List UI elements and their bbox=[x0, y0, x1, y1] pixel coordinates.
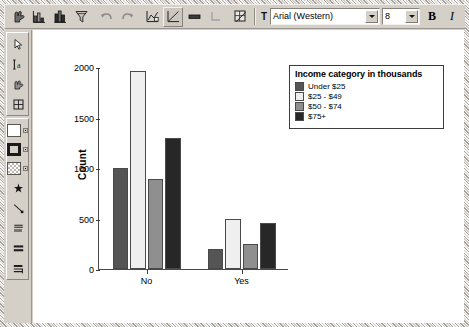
border-color-swatch[interactable] bbox=[7, 140, 28, 158]
legend-entries: Under $25$25 - $49$50 - $74$75+ bbox=[295, 82, 439, 121]
x-tick-mark bbox=[242, 269, 243, 274]
chart-canvas[interactable]: Count Owns PDA 0500100015002000 NoYes In… bbox=[33, 30, 464, 323]
fill-color-swatch[interactable] bbox=[7, 121, 28, 139]
legend-color-swatch bbox=[295, 112, 304, 121]
text-insert-icon[interactable]: a bbox=[7, 54, 29, 74]
svg-text:a: a bbox=[17, 61, 21, 70]
legend-color-swatch bbox=[295, 82, 304, 91]
table-grid-icon[interactable] bbox=[7, 94, 29, 114]
bar[interactable] bbox=[130, 71, 146, 269]
pattern-swatch[interactable] bbox=[7, 159, 28, 177]
bar-chart-icon[interactable] bbox=[29, 7, 49, 27]
redo-icon[interactable] bbox=[117, 7, 137, 27]
bar-style-icon[interactable] bbox=[7, 238, 29, 258]
bar[interactable] bbox=[208, 249, 224, 269]
bar-fill-icon[interactable] bbox=[184, 7, 204, 27]
palette-group-fills bbox=[6, 118, 29, 280]
border-color-chip[interactable] bbox=[7, 143, 21, 156]
histogram-icon[interactable] bbox=[50, 7, 70, 27]
italic-button[interactable]: I bbox=[444, 8, 460, 26]
toolbar-separator bbox=[254, 8, 256, 25]
font-name-value: Arial (Western) bbox=[271, 9, 364, 24]
font-size-value: 8 bbox=[383, 9, 404, 24]
y-tick-mark bbox=[96, 270, 100, 271]
pattern-dropdown[interactable] bbox=[23, 166, 28, 171]
legend-label: $25 - $49 bbox=[308, 92, 342, 101]
font-size-dropdown-arrow[interactable] bbox=[405, 10, 418, 23]
tool-palette: a bbox=[4, 30, 32, 323]
legend-item[interactable]: $25 - $49 bbox=[295, 92, 439, 101]
spike-style-icon[interactable] bbox=[7, 218, 29, 238]
font-name-combobox[interactable]: Arial (Western) bbox=[270, 8, 380, 25]
legend-item[interactable]: Under $25 bbox=[295, 82, 439, 91]
chart-frame-icon[interactable] bbox=[163, 7, 183, 27]
pointer-hand-icon[interactable] bbox=[8, 7, 28, 27]
data-label-icon[interactable] bbox=[7, 74, 29, 94]
line-style-icon[interactable] bbox=[7, 198, 29, 218]
bold-button[interactable]: B bbox=[424, 8, 440, 26]
bar[interactable] bbox=[113, 168, 129, 269]
bar[interactable] bbox=[225, 219, 241, 269]
font-name-dropdown-arrow[interactable] bbox=[365, 10, 378, 23]
main-toolbar: T Arial (Western) 8 B I bbox=[4, 4, 465, 29]
fill-color-dropdown[interactable] bbox=[23, 128, 28, 133]
undo-icon[interactable] bbox=[96, 7, 116, 27]
bar-label-icon[interactable] bbox=[7, 258, 29, 278]
bar[interactable] bbox=[148, 179, 164, 269]
legend-title: Income category in thousands bbox=[295, 69, 439, 79]
marker-star-icon[interactable] bbox=[7, 178, 29, 198]
pattern-chip[interactable] bbox=[7, 162, 21, 175]
grid-toggle-icon[interactable] bbox=[230, 7, 250, 27]
plot-area[interactable]: 0500100015002000 NoYes bbox=[98, 68, 288, 270]
legend-label: Under $25 bbox=[308, 82, 345, 91]
legend-item[interactable]: $50 - $74 bbox=[295, 102, 439, 111]
fill-color-chip[interactable] bbox=[7, 124, 21, 137]
x-tick-label: Yes bbox=[234, 276, 249, 286]
border-color-dropdown[interactable] bbox=[23, 147, 28, 152]
bar[interactable] bbox=[165, 138, 181, 269]
filter-icon[interactable] bbox=[71, 7, 91, 27]
legend-label: $50 - $74 bbox=[308, 102, 342, 111]
legend-item[interactable]: $75+ bbox=[295, 112, 439, 121]
corner-icon[interactable] bbox=[205, 7, 225, 27]
legend-label: $75+ bbox=[308, 112, 326, 121]
chart-legend[interactable]: Income category in thousands Under $25$2… bbox=[289, 65, 444, 129]
x-tick-mark bbox=[147, 269, 148, 274]
text-format-icon: T bbox=[261, 11, 267, 22]
x-axis-title: Owns PDA bbox=[128, 322, 328, 323]
font-size-combobox[interactable]: 8 bbox=[382, 8, 420, 25]
palette-group-tools: a bbox=[6, 32, 29, 116]
arrow-select-icon[interactable] bbox=[7, 34, 29, 54]
window-border-right bbox=[464, 0, 469, 327]
bar-series-group bbox=[99, 68, 288, 269]
chart-edit-icon[interactable] bbox=[142, 7, 162, 27]
legend-color-swatch bbox=[295, 92, 304, 101]
legend-color-swatch bbox=[295, 102, 304, 111]
x-tick-label: No bbox=[141, 276, 153, 286]
bar[interactable] bbox=[243, 244, 259, 269]
chart-editor-window: T Arial (Western) 8 B I a bbox=[0, 0, 469, 327]
bar[interactable] bbox=[260, 223, 276, 269]
